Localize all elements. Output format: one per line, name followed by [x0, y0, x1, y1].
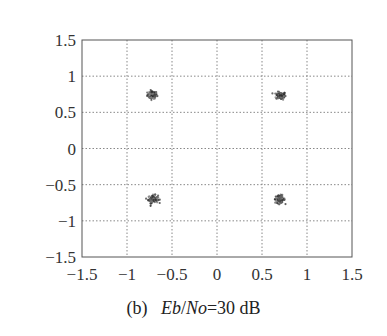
constellation-chart: −1.5−1−0.500.511.5 −1.5−1−0.500.511.5	[0, 0, 387, 336]
x-tick-label: −1.5	[67, 265, 98, 284]
scatter-points	[145, 89, 287, 207]
x-tick-label: 1	[303, 265, 312, 284]
caption-no: No	[186, 298, 207, 318]
x-tick-labels: −1.5−1−0.500.511.5	[67, 265, 363, 284]
symbol-cluster	[145, 194, 161, 207]
y-tick-labels: −1.5−1−0.500.511.5	[45, 31, 76, 267]
y-tick-label: 1	[68, 67, 77, 86]
y-tick-label: 1.5	[55, 31, 76, 50]
x-tick-label: −0.5	[157, 265, 188, 284]
caption-label: (b)	[126, 298, 147, 318]
x-tick-label: 0.5	[251, 265, 272, 284]
symbol-cluster	[271, 90, 286, 100]
y-tick-label: 0	[68, 140, 77, 159]
symbol-cluster	[274, 194, 287, 206]
grid-lines	[82, 40, 352, 257]
caption-eb: Eb	[161, 298, 181, 318]
x-tick-label: 0	[213, 265, 222, 284]
y-tick-label: 0.5	[55, 103, 76, 122]
y-tick-label: −1	[58, 212, 76, 231]
y-tick-label: −0.5	[45, 176, 76, 195]
x-tick-label: 1.5	[341, 265, 362, 284]
figure-caption: (b) Eb/No=30 dB	[0, 298, 387, 319]
symbol-cluster	[146, 89, 158, 101]
x-tick-label: −1	[118, 265, 136, 284]
caption-value: =30 dB	[207, 298, 261, 318]
